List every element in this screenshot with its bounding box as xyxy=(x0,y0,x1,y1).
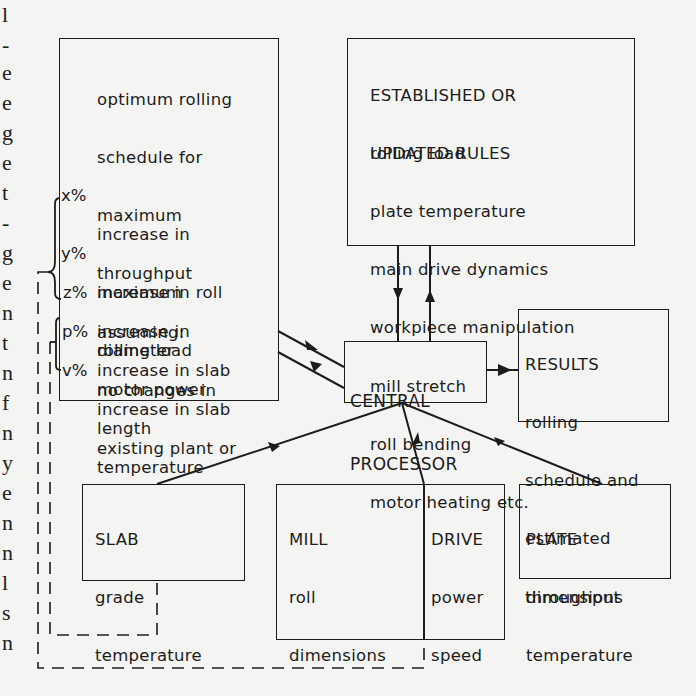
central-processor-label: CENTRAL PROCESSOR xyxy=(350,349,458,496)
plate-title: PLATE xyxy=(526,530,633,549)
drive-title: DRIVE xyxy=(431,530,484,549)
drive-line: speed xyxy=(431,646,484,665)
mill-line: roll xyxy=(289,588,391,607)
option-p-prefix: p% xyxy=(62,322,88,341)
central-line: CENTRAL xyxy=(350,391,458,412)
option-y-prefix: y% xyxy=(61,244,86,263)
results-line: rolling xyxy=(525,413,639,432)
mill-title: MILL xyxy=(289,530,391,549)
assumptions-line: schedule for xyxy=(97,148,236,167)
arrowhead-right xyxy=(305,340,318,350)
central-line: PROCESSOR xyxy=(350,454,458,475)
mill-line: dimensions xyxy=(289,646,391,665)
drive-line: power xyxy=(431,588,484,607)
plate-line: dimensions xyxy=(526,588,633,607)
results-title: RESULTS xyxy=(525,355,639,374)
slab-text: SLAB grade temperature dimensions xyxy=(95,491,202,696)
assumptions-line: optimum rolling xyxy=(97,90,236,109)
rules-title-line: ESTABLISHED OR xyxy=(370,86,516,105)
option-line: increase in xyxy=(97,225,192,244)
plate-line: temperature xyxy=(526,646,633,665)
central-to-assumptions-line xyxy=(278,352,344,388)
option-z-prefix: z% xyxy=(63,283,87,302)
slab-line: temperature xyxy=(95,646,202,665)
option-v: increase in slab temperature xyxy=(97,361,231,497)
option-line: temperature xyxy=(97,458,231,477)
option-x-prefix: x% xyxy=(61,186,86,205)
drive-text: DRIVE power speed xyxy=(431,491,484,685)
slab-title: SLAB xyxy=(95,530,202,549)
slab-line: grade xyxy=(95,588,202,607)
rule-item: rolling load xyxy=(370,144,575,163)
rule-item: main drive dynamics xyxy=(370,260,575,279)
mill-text: MILL roll dimensions and camber modulus … xyxy=(289,491,391,696)
plate-text: PLATE dimensions temperature (if require… xyxy=(526,491,633,696)
option-line: increase in slab xyxy=(97,400,231,419)
rule-item: plate temperature xyxy=(370,202,575,221)
option-v-prefix: v% xyxy=(62,361,87,380)
